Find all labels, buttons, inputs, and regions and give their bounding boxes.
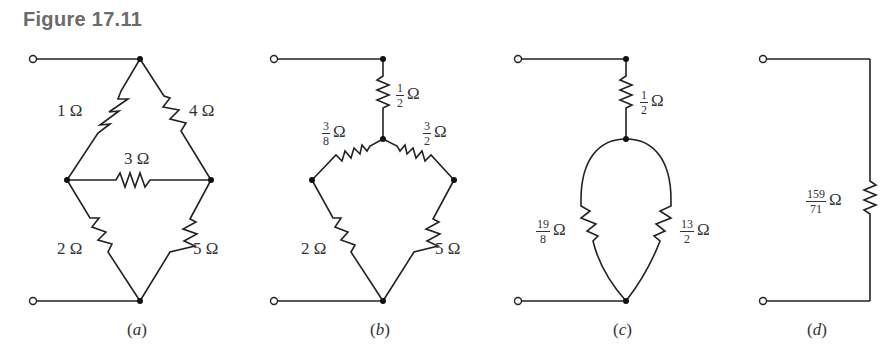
resistor-label-b-2: 2 Ω: [301, 240, 326, 257]
panel-b-circuit: [271, 56, 458, 305]
resistor-label-b-left: 38Ω: [322, 120, 346, 147]
circuit-diagrams: .w { stroke:#222; stroke-width:1.6; fill…: [0, 0, 895, 355]
panel-d-circuit: [760, 56, 877, 305]
resistor-label-b-right: 32Ω: [423, 120, 447, 147]
caption-d: (d): [807, 320, 827, 340]
panel-a-circuit: [30, 56, 215, 305]
resistor-label-c-right: 132Ω: [680, 218, 710, 245]
resistor-label-a-5: 5 Ω: [193, 240, 218, 257]
resistor-label-a-3: 3 Ω: [124, 150, 149, 167]
resistor-label-c-left: 198Ω: [536, 218, 566, 245]
resistor-label-a-1: 1 Ω: [57, 102, 82, 119]
caption-c: (c): [613, 320, 632, 340]
caption-b: (b): [370, 320, 390, 340]
caption-a: (a): [127, 320, 147, 340]
resistor-label-a-4: 4 Ω: [189, 102, 214, 119]
resistor-label-c-top: 12Ω: [640, 89, 664, 116]
resistor-label-d-eq: 15971Ω: [806, 188, 842, 215]
resistor-label-b-top: 12Ω: [396, 82, 420, 109]
resistor-label-a-2: 2 Ω: [57, 240, 82, 257]
resistor-label-b-5: 5 Ω: [435, 240, 460, 257]
